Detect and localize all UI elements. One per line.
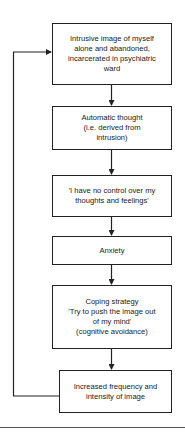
node-text-line: Coping strategy <box>85 297 138 307</box>
node-intrusive-image: Intrusive image of myself alone and aban… <box>52 23 172 85</box>
node-text-line: incarcerated in psychiatric <box>68 54 156 64</box>
bottom-divider <box>0 427 185 428</box>
node-automatic-thought: Automatic thought (i.e. derived from int… <box>52 106 172 150</box>
node-text-line: ward <box>104 64 120 74</box>
node-text-line: Increased frequency and <box>74 382 158 392</box>
node-text-line: intensity of image <box>86 392 145 402</box>
node-text-line: of my mind' <box>93 317 132 327</box>
node-text-line: alone and abandoned, <box>74 44 150 54</box>
node-coping-strategy: Coping strategy 'Try to push the image o… <box>52 285 172 349</box>
node-text-line: (cognitive avoidance) <box>76 327 148 337</box>
node-text-line: Automatic thought <box>81 113 142 123</box>
node-increased-frequency: Increased frequency and intensity of ima… <box>59 370 172 413</box>
node-no-control: 'I have no control over my thoughts and … <box>52 175 172 217</box>
node-text-line: Intrusive image of myself <box>70 34 154 44</box>
node-text-line: intrusion) <box>96 133 127 143</box>
node-text-line: thoughts and feelings' <box>75 196 149 206</box>
node-text-line: Anxiety <box>100 246 125 256</box>
node-text-line: 'I have no control over my <box>69 186 156 196</box>
node-text-line: 'Try to push the image out <box>68 307 155 317</box>
node-anxiety: Anxiety <box>52 236 172 265</box>
node-text-line: (i.e. derived from <box>84 123 141 133</box>
